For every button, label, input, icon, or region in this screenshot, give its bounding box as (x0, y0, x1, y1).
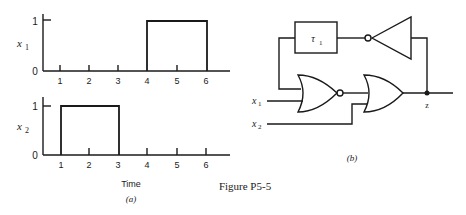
inverter-bubble (365, 35, 371, 41)
svg-text:2: 2 (86, 76, 91, 86)
x2-axis-label-sub: 2 (25, 126, 29, 135)
output-junction-dot (425, 91, 430, 96)
svg-text:1: 1 (58, 160, 63, 170)
svg-text:1: 1 (57, 76, 62, 86)
x-ticks (60, 65, 177, 71)
timing-plot-x2: 1 0 x 2 1 2 3 4 5 6 Time (16, 97, 230, 189)
panel-a-label: (a) (126, 194, 137, 204)
x1-pulse (147, 21, 207, 71)
x2-axis-label: x (16, 120, 22, 132)
svg-text:6: 6 (203, 76, 208, 86)
input-x1-sub: 1 (258, 100, 262, 108)
x-tick-labels: 1 2 3 4 5 6 (58, 160, 208, 170)
x1-axis-label-sub: 1 (25, 43, 29, 52)
svg-text:5: 5 (174, 160, 179, 170)
svg-text:3: 3 (115, 160, 120, 170)
x-axis-title: Time (121, 179, 141, 189)
logic-circuit: τ 1 x 1 x 2 z (251, 17, 453, 131)
delay-label-sub: 1 (319, 39, 323, 47)
y-tick-label-0: 0 (32, 150, 38, 161)
figure-caption: Figure P5-5 (219, 180, 272, 192)
panel-b-label: (b) (347, 153, 358, 163)
x-ticks (89, 148, 206, 155)
inverter-gate (372, 17, 411, 59)
wire-feedback-output (411, 38, 427, 93)
delay-label: τ (311, 33, 315, 44)
svg-text:4: 4 (144, 76, 149, 86)
input-x2-label: x (251, 118, 257, 129)
or-gate (364, 75, 403, 112)
wire-delay-to-nor (279, 38, 301, 89)
output-z-label: z (425, 101, 429, 110)
y-tick-label-1: 1 (32, 16, 38, 27)
x1-axis-label: x (16, 37, 22, 49)
timing-plot-x1: 1 0 x 1 1 2 3 4 5 6 (16, 14, 230, 86)
x-tick-labels: 1 2 3 4 5 6 (57, 76, 208, 86)
svg-text:3: 3 (115, 76, 120, 86)
svg-text:2: 2 (86, 160, 91, 170)
svg-text:5: 5 (174, 76, 179, 86)
delay-element (295, 22, 337, 53)
figure-canvas: 1 0 x 1 1 2 3 4 5 6 1 0 x 2 1 2 3 (0, 0, 466, 215)
input-x1-label: x (251, 95, 257, 106)
input-x2-sub: 2 (258, 123, 262, 131)
svg-text:6: 6 (203, 160, 208, 170)
x2-pulse (61, 106, 119, 155)
y-tick-label-1: 1 (32, 101, 38, 112)
y-tick-label-0: 0 (32, 66, 38, 77)
svg-text:4: 4 (144, 160, 149, 170)
nor-gate (298, 75, 337, 112)
